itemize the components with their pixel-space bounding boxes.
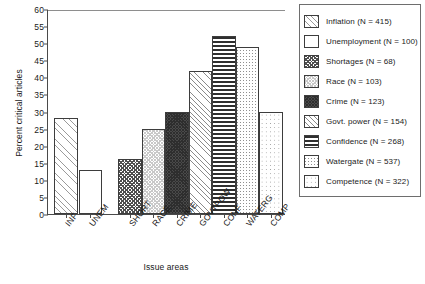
bar-inf (54, 118, 78, 214)
legend-swatch-unem (304, 35, 319, 48)
bar-govtpow (189, 71, 213, 215)
y-tick-mark (44, 95, 48, 96)
legend-item: Competence (N = 322) (304, 171, 420, 191)
legend-swatch-conf (304, 135, 319, 148)
y-tick-mark (44, 146, 48, 147)
y-tick-label: 40 (34, 73, 44, 83)
legend-label: Govt. power (N = 154) (326, 117, 407, 126)
y-tick-mark (44, 10, 48, 11)
y-tick-label: 50 (34, 39, 44, 49)
y-tick-mark (44, 61, 48, 62)
legend-item: Govt. power (N = 154) (304, 111, 420, 131)
legend-item: Crime (N = 123) (304, 91, 420, 111)
legend-swatch-race (304, 75, 319, 88)
legend-label: Shortages (N = 68) (326, 57, 396, 66)
legend-swatch-govtpow (304, 115, 319, 128)
y-tick-mark (44, 197, 48, 198)
legend-item: Inflation (N = 415) (304, 11, 420, 31)
legend-item: Race (N = 103) (304, 71, 420, 91)
legend-swatch-inf (304, 15, 319, 28)
y-tick-mark (44, 112, 48, 113)
y-tick-label: 25 (34, 125, 44, 135)
y-tick-label: 55 (34, 22, 44, 32)
legend-label: Competence (N = 322) (326, 177, 409, 186)
chart-figure: Percent critical articles 05101520253035… (0, 0, 425, 284)
legend-item: Watergate (N = 537) (304, 151, 420, 171)
chart-legend: Inflation (N = 415)Unemployment (N = 100… (299, 4, 421, 197)
y-tick-mark (44, 180, 48, 181)
y-tick-mark (44, 27, 48, 28)
legend-label: Race (N = 103) (326, 77, 382, 86)
legend-label: Watergate (N = 537) (326, 157, 400, 166)
y-tick-label: 30 (34, 108, 44, 118)
y-tick-mark (44, 78, 48, 79)
legend-item: Unemployment (N = 100) (304, 31, 420, 51)
legend-swatch-crime (304, 95, 319, 108)
legend-item: Confidence (N = 268) (304, 131, 420, 151)
y-tick-label: 20 (34, 142, 44, 152)
legend-item: Shortages (N = 68) (304, 51, 420, 71)
bar-crime (165, 112, 189, 215)
y-tick-label: 60 (34, 5, 44, 15)
y-tick-mark (44, 44, 48, 45)
x-axis-title: Issue areas (47, 262, 285, 272)
bar-waterg (236, 47, 260, 214)
y-tick-label: 10 (34, 176, 44, 186)
y-tick-mark (44, 129, 48, 130)
y-tick-label: 35 (34, 90, 44, 100)
y-tick-mark (44, 215, 48, 216)
y-tick-label: 15 (34, 159, 44, 169)
y-tick-mark (44, 163, 48, 164)
legend-swatch-comp (304, 175, 319, 188)
legend-swatch-waterg (304, 155, 319, 168)
plot-area: 051015202530354045505560 (47, 10, 285, 215)
legend-label: Confidence (N = 268) (326, 137, 404, 146)
y-axis-title: Percent critical articles (14, 38, 24, 188)
legend-label: Unemployment (N = 100) (326, 37, 418, 46)
legend-label: Inflation (N = 415) (326, 17, 392, 26)
legend-label: Crime (N = 123) (326, 97, 385, 106)
legend-swatch-short (304, 55, 319, 68)
y-tick-label: 45 (34, 56, 44, 66)
